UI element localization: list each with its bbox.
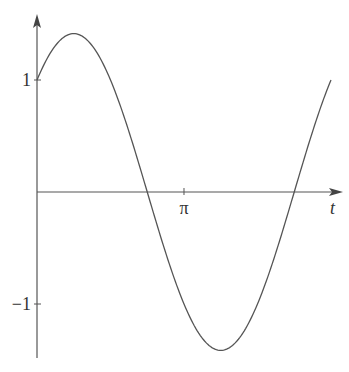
labels: t (330, 198, 336, 218)
y-tick-label: 1 (22, 70, 31, 90)
line-chart: π1−1 t (0, 0, 349, 372)
y-tick-label: −1 (12, 294, 31, 314)
x-tick-label: π (179, 198, 188, 218)
x-axis-label: t (330, 198, 336, 218)
